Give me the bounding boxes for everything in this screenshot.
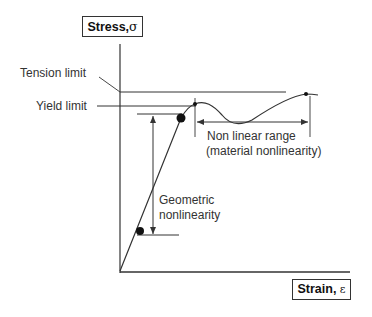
x-axis-label-text: Strain,	[297, 282, 336, 296]
stress-strain-diagram	[0, 0, 372, 317]
tension-limit-label: Tension limit	[20, 66, 86, 80]
sigma-symbol: σ	[129, 19, 138, 34]
stress-strain-curve	[120, 94, 318, 271]
tension-limit-leader	[99, 77, 120, 92]
nonlinear-range-label-1: Non linear range	[207, 129, 296, 143]
yield-point	[177, 114, 186, 123]
x-axis-label: Strain, ε	[292, 279, 351, 300]
epsilon-symbol: ε	[340, 283, 346, 296]
nonlinear-range-label-2: (material nonlinearity)	[206, 144, 321, 158]
y-axis-label: Stress,σ	[82, 16, 143, 37]
y-axis-label-text: Stress,	[87, 20, 129, 34]
geometric-label-2: nonlinearity	[159, 208, 220, 222]
material-start-point	[193, 102, 197, 106]
tension-point	[304, 92, 308, 96]
geometric-label-1: Geometric	[159, 193, 214, 207]
yield-limit-label: Yield limit	[36, 99, 87, 113]
geometric-lower-point	[136, 227, 144, 235]
